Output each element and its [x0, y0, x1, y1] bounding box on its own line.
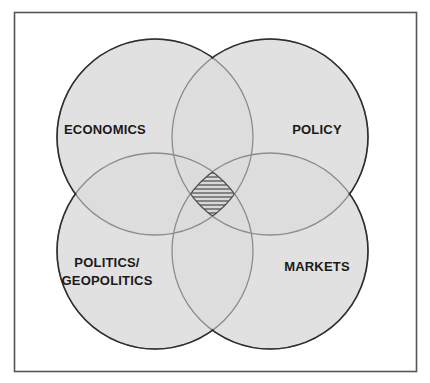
label-politics-geopolitics-line-2: GEOPOLITICS — [61, 273, 152, 288]
venn-diagram: ECONOMICSPOLICYPOLITICS/GEOPOLITICSMARKE… — [0, 0, 430, 383]
label-policy: POLICY — [292, 122, 342, 137]
label-politics-geopolitics-line-1: POLITICS/ — [74, 255, 140, 270]
label-markets: MARKETS — [284, 259, 350, 274]
label-economics: ECONOMICS — [64, 122, 146, 137]
